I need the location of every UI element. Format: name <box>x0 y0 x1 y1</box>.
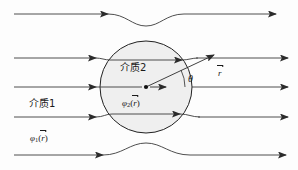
radius-vector-symbol: r <box>218 68 222 78</box>
sphere-center-dot <box>144 85 148 89</box>
label-potential-inner: φ2(r) <box>122 99 140 109</box>
phi-outer-vector-arg: r <box>41 134 45 143</box>
phi-inner-arg: r <box>133 98 137 108</box>
phi-inner-paren-close: ) <box>137 98 140 108</box>
vector-bar-icon <box>40 130 46 131</box>
field-line-top-right-segment <box>108 14 276 26</box>
field-line-bottom-right-segment <box>103 143 286 155</box>
field-diagram-svg <box>0 0 298 170</box>
field-line-upper-entry <box>96 58 110 60</box>
field-line-top <box>14 14 276 26</box>
phi-inner-vector-arg: r <box>133 99 137 108</box>
vector-bar-icon <box>217 65 223 66</box>
label-potential-outer: φ1(r) <box>30 134 48 144</box>
vector-bar-icon <box>132 95 138 96</box>
label-angle-theta: θ <box>188 74 193 84</box>
radius-vector-symbol-group: r <box>218 69 222 78</box>
field-line-lower-exit <box>180 114 200 117</box>
phi-outer-arg: r <box>41 133 45 143</box>
label-radius-vector: r <box>218 69 222 78</box>
field-line-bottom <box>14 143 286 155</box>
field-line-upper-exit <box>182 58 198 60</box>
figure-canvas: 介质2 介质1 φ2(r) φ1(r) θ r <box>0 0 298 170</box>
phi-outer-paren-close: ) <box>45 133 48 143</box>
label-medium-inner: 介质2 <box>120 63 146 73</box>
label-medium-outer: 介质1 <box>29 99 55 109</box>
